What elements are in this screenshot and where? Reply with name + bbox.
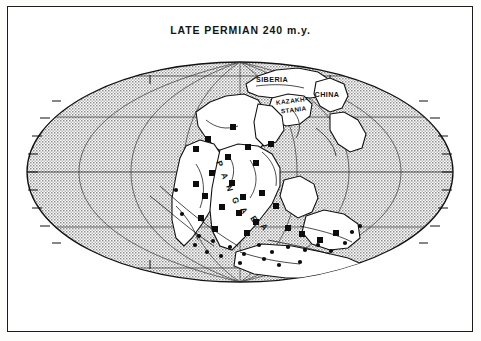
map-canvas: SIBERIA KAZAKH- STANIA CHINA P A N G A E… bbox=[0, 0, 481, 341]
data-marker-square-3 bbox=[245, 144, 251, 150]
data-marker-dot-7 bbox=[316, 243, 320, 247]
data-marker-dot-0 bbox=[211, 239, 215, 243]
data-marker-dot-13 bbox=[180, 212, 184, 216]
data-marker-square-2 bbox=[193, 146, 199, 152]
data-marker-square-16 bbox=[198, 215, 204, 221]
data-marker-dot-2 bbox=[242, 252, 246, 256]
data-marker-square-7 bbox=[209, 170, 215, 176]
data-marker-dot-18 bbox=[350, 230, 354, 234]
data-marker-square-9 bbox=[229, 180, 235, 186]
data-marker-dot-15 bbox=[298, 260, 302, 264]
data-marker-dot-12 bbox=[197, 234, 201, 238]
data-marker-dot-14 bbox=[174, 188, 178, 192]
data-marker-square-1 bbox=[205, 136, 211, 142]
data-marker-square-23 bbox=[333, 230, 339, 236]
data-marker-dot-16 bbox=[277, 263, 281, 267]
data-marker-square-5 bbox=[225, 154, 231, 160]
data-marker-square-18 bbox=[212, 226, 218, 232]
data-marker-dot-11 bbox=[238, 261, 242, 265]
data-marker-dot-6 bbox=[303, 248, 307, 252]
figure-root: LATE PERMIAN 240 m.y. bbox=[0, 0, 481, 341]
data-marker-square-0 bbox=[230, 124, 236, 130]
data-marker-dot-20 bbox=[205, 250, 209, 254]
data-marker-dot-9 bbox=[343, 241, 347, 245]
label-siberia: SIBERIA bbox=[256, 75, 288, 84]
data-marker-dot-10 bbox=[262, 257, 266, 261]
data-marker-dot-21 bbox=[193, 243, 197, 247]
data-marker-square-13 bbox=[219, 204, 225, 210]
data-marker-square-10 bbox=[202, 193, 208, 199]
data-marker-dot-3 bbox=[257, 243, 261, 247]
data-marker-dot-5 bbox=[286, 245, 290, 249]
data-marker-square-14 bbox=[236, 210, 242, 216]
data-marker-dot-19 bbox=[358, 224, 362, 228]
data-marker-dot-17 bbox=[219, 254, 223, 258]
data-marker-square-4 bbox=[268, 141, 274, 147]
label-china: CHINA bbox=[315, 90, 340, 99]
data-marker-square-15 bbox=[273, 203, 279, 209]
data-marker-square-20 bbox=[285, 225, 291, 231]
data-marker-dot-1 bbox=[228, 245, 232, 249]
paleomap-svg: SIBERIA KAZAKH- STANIA CHINA P A N G A E… bbox=[0, 0, 481, 341]
data-marker-square-12 bbox=[259, 190, 265, 196]
data-marker-square-8 bbox=[193, 181, 199, 187]
data-marker-square-17 bbox=[253, 219, 259, 225]
data-marker-square-21 bbox=[299, 231, 305, 237]
data-marker-square-6 bbox=[253, 160, 259, 166]
data-marker-square-19 bbox=[244, 230, 250, 236]
data-marker-square-22 bbox=[317, 237, 323, 243]
data-marker-square-11 bbox=[240, 194, 246, 200]
data-marker-dot-4 bbox=[270, 250, 274, 254]
data-marker-dot-8 bbox=[329, 249, 333, 253]
